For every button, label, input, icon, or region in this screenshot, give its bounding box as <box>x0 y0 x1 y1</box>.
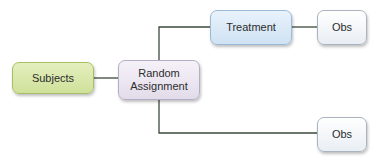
subjects-node: Subjects <box>12 62 94 94</box>
subjects-label: Subjects <box>32 72 74 85</box>
obs-control-node: Obs <box>317 117 367 152</box>
treatment-node: Treatment <box>210 10 292 45</box>
random-assignment-line2: Assignment <box>130 80 187 92</box>
treatment-label: Treatment <box>226 21 276 34</box>
random-assignment-node: Random Assignment <box>118 60 200 100</box>
obs-control-label: Obs <box>332 128 352 141</box>
obs-treatment-node: Obs <box>317 10 367 45</box>
random-assignment-label: Random Assignment <box>130 67 187 93</box>
obs-treatment-label: Obs <box>332 21 352 34</box>
random-assignment-line1: Random <box>138 67 180 79</box>
experiment-design-diagram: Subjects Random Assignment Treatment Obs… <box>0 0 378 162</box>
